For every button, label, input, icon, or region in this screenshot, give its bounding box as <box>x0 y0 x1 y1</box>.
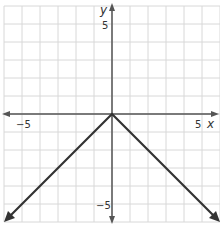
y-tick-neg5: −5 <box>96 200 111 211</box>
x-axis-label: x <box>206 117 215 131</box>
x-tick-5: 5 <box>195 119 201 130</box>
x-axis-arrow-left-icon <box>2 111 10 117</box>
y-tick-5: 5 <box>102 20 108 31</box>
y-axis-arrow-down-icon <box>109 216 115 224</box>
y-axis-label: y <box>99 3 108 17</box>
coordinate-plane: y 5 −5 −5 5 x <box>0 0 220 227</box>
x-tick-neg5: −5 <box>16 119 31 130</box>
y-axis-arrow-up-icon <box>109 3 115 11</box>
